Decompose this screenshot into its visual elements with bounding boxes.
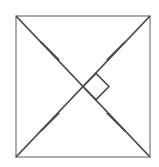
geometry-figure-svg <box>0 0 159 167</box>
geometry-figure-container: Square with diagonals, congruence tick m… <box>0 0 159 167</box>
